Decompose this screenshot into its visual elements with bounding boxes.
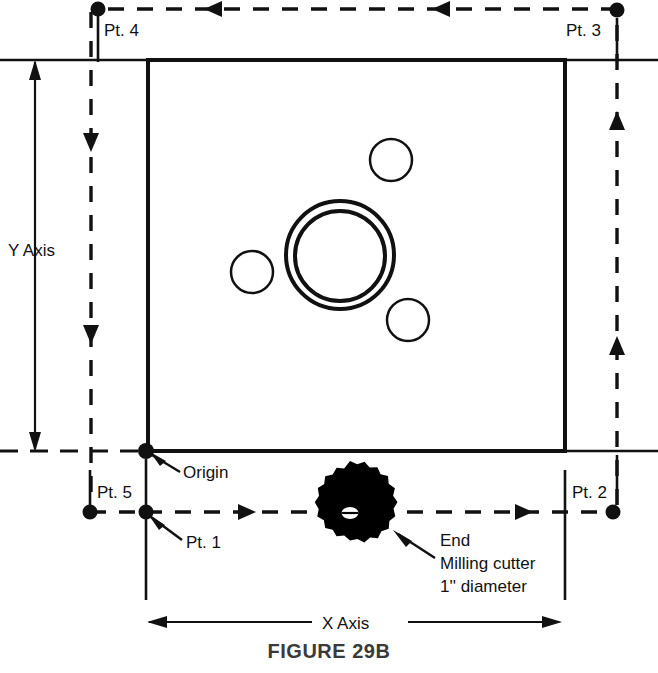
large-bore-inner-circle xyxy=(295,211,385,301)
toolpath-arrow-bottom-2 xyxy=(515,504,533,520)
x-axis-label: X Axis xyxy=(322,614,369,633)
label-pt5: Pt. 5 xyxy=(97,483,132,502)
milling-cutter[interactable] xyxy=(315,461,398,543)
toolpath-arrow-left-2 xyxy=(83,325,99,344)
point-marker-pt4[interactable] xyxy=(91,2,106,17)
label-pt1: Pt. 1 xyxy=(186,533,221,552)
toolpath-arrow-right-1 xyxy=(609,336,625,355)
toolpath-arrow-left-1 xyxy=(83,133,99,152)
cutter-leader-arrowhead xyxy=(393,530,412,547)
label-pt2: Pt. 2 xyxy=(572,483,607,502)
x-axis-arrow-right xyxy=(542,616,562,628)
cutter-annotation-line-3: 1'' diameter xyxy=(440,577,527,596)
label-pt3: Pt. 3 xyxy=(566,21,601,40)
y-axis-label: Y Axis xyxy=(8,241,55,260)
engineering-drawing-canvas: Y Axis X Axis Pt. 4 Pt. 3 Pt. 5 Pt. 1 Pt… xyxy=(0,0,658,673)
point-marker-pt5[interactable] xyxy=(83,505,98,520)
small-hole-left xyxy=(231,251,273,293)
toolpath-arrow-bottom-1 xyxy=(238,504,256,520)
milling-cutter-body xyxy=(315,461,398,543)
label-origin: Origin xyxy=(183,463,228,482)
cutter-annotation-line-2: Milling cutter xyxy=(440,554,536,573)
point-marker-pt3[interactable] xyxy=(610,3,625,18)
small-hole-lower-right xyxy=(387,299,429,341)
workpiece-outline xyxy=(148,60,565,451)
toolpath-arrow-right-2 xyxy=(609,111,625,130)
toolpath-arrow-top-2 xyxy=(432,1,450,17)
point-marker-origin[interactable] xyxy=(138,443,154,459)
point-marker-pt2[interactable] xyxy=(606,505,621,520)
y-axis-arrow-top xyxy=(29,60,41,80)
y-axis-arrow-bottom xyxy=(29,432,41,452)
large-bore-outer-circle xyxy=(286,201,394,309)
small-hole-upper-right xyxy=(370,139,412,181)
figure-29b: Y Axis X Axis Pt. 4 Pt. 3 Pt. 5 Pt. 1 Pt… xyxy=(0,0,658,673)
toolpath-arrow-top-1 xyxy=(204,1,222,17)
cutter-annotation-line-1: End xyxy=(440,531,470,550)
figure-caption: FIGURE 29B xyxy=(0,640,658,663)
x-axis-arrow-left xyxy=(147,616,167,628)
pt1-leader-arrowhead xyxy=(148,514,165,530)
origin-leader-arrowhead xyxy=(150,452,166,466)
label-pt4: Pt. 4 xyxy=(104,21,139,40)
